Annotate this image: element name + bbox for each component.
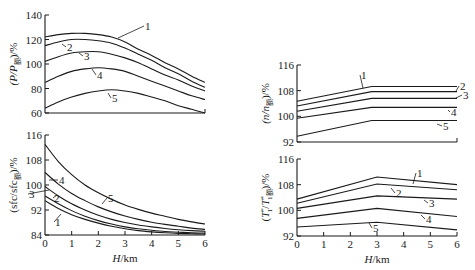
y-tick-label: 108 <box>26 154 43 166</box>
engine-altitude-characteristics-figure: 6080100120140(P/P额)/%1234584921001081160… <box>0 0 475 270</box>
x-tick-label: 4 <box>401 238 407 250</box>
y-tick-label: 60 <box>31 107 43 119</box>
curve-5 <box>45 144 205 224</box>
x-tick-label: 0 <box>42 237 48 249</box>
x-tick-label: 3 <box>122 237 128 249</box>
x-tick-label: 2 <box>348 238 354 250</box>
curve-label-3: 3 <box>84 50 90 62</box>
panel-speed: 92100108116(n/n额)/%12345 <box>259 59 469 148</box>
curve-2 <box>45 196 205 233</box>
y-tick-label: 140 <box>26 9 43 21</box>
y-tick-label: 108 <box>278 85 295 97</box>
curve-label-2: 2 <box>67 41 73 53</box>
curve-5 <box>45 90 205 113</box>
curve-label-4: 4 <box>59 174 65 186</box>
curve-4 <box>45 173 205 230</box>
y-tick-label: 92 <box>31 204 42 216</box>
y-tick-label: 92 <box>283 230 294 242</box>
x-axis-title: H/km <box>111 252 138 264</box>
curve-5 <box>297 121 457 137</box>
curve-label-leader <box>369 223 372 228</box>
y-tick-label: 100 <box>278 110 295 122</box>
curve-label-1: 1 <box>145 20 151 32</box>
y-tick-label: 92 <box>283 136 294 148</box>
curve-4 <box>297 107 457 118</box>
curve-1 <box>297 86 457 101</box>
curve-label-5: 5 <box>373 222 379 234</box>
x-tick-label: 3 <box>374 238 380 250</box>
curve-label-leader <box>456 95 462 98</box>
x-tick-label: 5 <box>428 238 434 250</box>
y-tick-label: 116 <box>26 129 43 141</box>
curve-label-leader <box>79 53 83 56</box>
x-tick-label: 5 <box>176 237 182 249</box>
curve-label-leader <box>424 200 428 203</box>
y-tick-label: 80 <box>31 83 43 95</box>
panel-temperature: 921001081160123456H/km(T*1/T*1额)/%12345 <box>259 153 460 265</box>
x-tick-label: 2 <box>96 237 102 249</box>
x-axis-title: H/km <box>363 253 390 265</box>
curve-label-1: 1 <box>417 167 423 179</box>
y-axis-title: (sfc/sfc额)/% <box>7 157 22 212</box>
curve-label-5: 5 <box>112 92 118 104</box>
x-tick-label: 0 <box>294 238 300 250</box>
y-axis-title: (T*1/T*1额)/% <box>259 174 274 222</box>
curve-label-leader <box>413 173 416 184</box>
curve-label-4: 4 <box>451 106 457 118</box>
curve-label-leader <box>437 124 442 126</box>
curve-label-1: 1 <box>361 69 367 81</box>
y-tick-label: 116 <box>278 59 295 71</box>
chart-svg: 6080100120140(P/P额)/%1234584921001081160… <box>0 0 475 270</box>
curve-3 <box>297 98 457 111</box>
y-tick-label: 100 <box>26 58 43 70</box>
curve-label-4: 4 <box>97 69 103 81</box>
curve-label-4: 4 <box>426 213 432 225</box>
curve-label-leader <box>92 69 96 75</box>
y-axis-title: (n/n额)/% <box>259 83 274 124</box>
curve-label-leader <box>118 26 144 38</box>
curve-label-3: 3 <box>29 188 35 200</box>
curve-label-leader <box>102 198 107 204</box>
y-tick-label: 100 <box>278 204 295 216</box>
panel-sfc: 84921001081160123456H/km(sfc/sfc额)/%1234… <box>7 129 208 264</box>
curve-label-5: 5 <box>443 120 449 132</box>
y-tick-label: 116 <box>278 153 295 165</box>
curve-label-5: 5 <box>108 192 114 204</box>
curve-label-2: 2 <box>54 192 60 204</box>
curve-4 <box>297 208 457 218</box>
y-tick-label: 84 <box>31 229 43 241</box>
curve-4 <box>45 68 205 100</box>
y-axis-title: (P/P额)/% <box>7 42 22 85</box>
x-tick-label: 6 <box>454 238 460 250</box>
curve-label-3: 3 <box>429 197 435 209</box>
x-tick-label: 4 <box>149 237 155 249</box>
y-tick-label: 120 <box>26 34 43 46</box>
y-tick-label: 108 <box>278 179 295 191</box>
x-tick-label: 1 <box>69 237 75 249</box>
curve-label-leader <box>391 188 395 193</box>
x-tick-label: 6 <box>202 237 208 249</box>
curve-label-leader <box>108 93 111 98</box>
curve-1 <box>45 201 205 234</box>
curve-label-1: 1 <box>55 216 61 228</box>
curve-label-2: 2 <box>396 187 402 199</box>
panel-power: 6080100120140(P/P额)/%12345 <box>7 9 205 119</box>
curve-label-leader <box>448 110 450 112</box>
curve-label-leader <box>421 215 425 219</box>
x-tick-label: 1 <box>321 238 327 250</box>
curve-label-3: 3 <box>463 89 469 101</box>
curve-label-leader <box>62 44 66 47</box>
